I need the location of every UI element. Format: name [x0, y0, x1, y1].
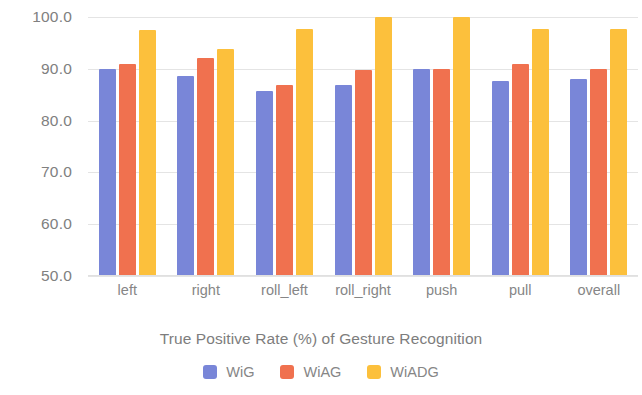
x-axis-tick-label: right — [167, 282, 246, 298]
bar — [256, 91, 273, 276]
bar — [217, 49, 234, 276]
y-axis-tick-label: 70.0 — [41, 163, 72, 181]
legend-label: WiADG — [390, 364, 438, 380]
legend-item[interactable]: WiAG — [280, 364, 341, 380]
legend-label: WiAG — [303, 364, 341, 380]
x-axis-tick-label: pull — [481, 282, 560, 298]
x-axis-labels: leftrightroll_leftroll_rightpushpullover… — [88, 282, 638, 298]
y-axis-tick-label: 60.0 — [41, 215, 72, 233]
x-axis-tick-label: roll_left — [245, 282, 324, 298]
bar-group — [559, 17, 638, 276]
bar — [610, 29, 627, 276]
bar — [532, 29, 549, 276]
chart-legend: WiGWiAGWiADG — [0, 364, 642, 380]
y-axis-tick-label: 90.0 — [41, 60, 72, 78]
bar — [453, 17, 470, 276]
bar — [197, 58, 214, 276]
bar-group — [88, 17, 167, 276]
plot-area — [88, 17, 638, 276]
bar — [99, 69, 116, 276]
y-axis-tick-label: 50.0 — [41, 267, 72, 285]
legend-swatch-icon — [280, 365, 294, 379]
gridline — [88, 276, 638, 277]
bar-chart: 50.060.070.080.090.0100.0 leftrightroll_… — [0, 0, 642, 395]
legend-label: WiG — [226, 364, 254, 380]
x-axis-tick-label: left — [88, 282, 167, 298]
x-axis-tick-label: push — [402, 282, 481, 298]
x-axis-tick-label: overall — [559, 282, 638, 298]
y-axis-tick-label: 100.0 — [32, 8, 72, 26]
bar — [413, 69, 430, 276]
y-axis: 50.060.070.080.090.0100.0 — [0, 0, 82, 293]
bar-group — [245, 17, 324, 276]
x-axis-tick-label: roll_right — [324, 282, 403, 298]
bar — [433, 69, 450, 276]
bar — [296, 29, 313, 276]
bar — [276, 85, 293, 276]
bar — [590, 69, 607, 276]
bar — [139, 30, 156, 276]
x-axis-line — [88, 275, 638, 276]
bar-group — [402, 17, 481, 276]
bar — [570, 79, 587, 276]
bar — [355, 70, 372, 276]
bar — [177, 76, 194, 276]
legend-item[interactable]: WiG — [203, 364, 254, 380]
bar — [335, 85, 352, 276]
bar — [119, 64, 136, 276]
bar-groups — [88, 17, 638, 276]
y-axis-tick-label: 80.0 — [41, 112, 72, 130]
bar-group — [324, 17, 403, 276]
x-axis-title: True Positive Rate (%) of Gesture Recogn… — [0, 330, 642, 348]
bar-group — [481, 17, 560, 276]
legend-swatch-icon — [367, 365, 381, 379]
bar — [375, 17, 392, 276]
bar-group — [167, 17, 246, 276]
legend-swatch-icon — [203, 365, 217, 379]
bar — [512, 64, 529, 276]
legend-item[interactable]: WiADG — [367, 364, 438, 380]
bar — [492, 81, 509, 276]
